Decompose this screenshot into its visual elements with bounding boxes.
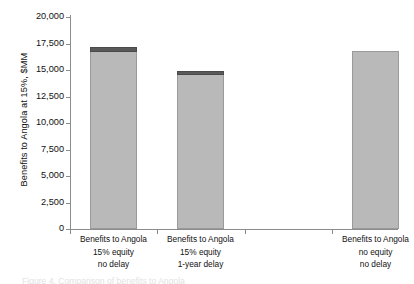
- y-axis-tick-label: 10,000: [2, 118, 64, 127]
- y-axis-tick-label: 12,500: [2, 92, 64, 101]
- y-axis-tick-mark: [66, 176, 71, 177]
- x-axis-category-label-line: no equity: [316, 246, 414, 259]
- bar: [352, 51, 399, 229]
- y-axis-tick-label: 7,500: [2, 145, 64, 154]
- y-axis-tick-mark: [66, 44, 71, 45]
- y-axis-tick-mark: [66, 17, 71, 18]
- bar: [177, 71, 224, 229]
- figure-caption-cutoff: Figure 4. Comparison of benefits to Ango…: [22, 276, 352, 284]
- y-axis-tick-mark: [66, 97, 71, 98]
- bar: [90, 47, 137, 229]
- bar-segment-main: [177, 71, 224, 229]
- y-axis-tick-label: 5,000: [2, 171, 64, 180]
- bar-segment-cap: [177, 71, 224, 75]
- x-axis-category-label-line: Benefits to Angola: [316, 233, 414, 246]
- y-axis-tick-label: 2,500: [2, 198, 64, 207]
- x-axis-category-label: Benefits to Angola15% equity1-year delay: [141, 233, 261, 271]
- x-axis-category-label: Benefits to Angolano equityno delay: [316, 233, 414, 271]
- bar-segment-cap: [90, 47, 137, 52]
- y-axis-tick-mark: [66, 70, 71, 71]
- y-axis-tick-mark: [66, 123, 71, 124]
- y-axis-tick-label: 20,000: [2, 12, 64, 21]
- y-axis-tick-mark: [66, 203, 71, 204]
- bar-segment-main: [352, 51, 399, 229]
- x-axis-line: [70, 229, 398, 230]
- x-axis-category-label-line: Benefits to Angola: [141, 233, 261, 246]
- y-axis-tick-label: 0: [2, 224, 64, 233]
- y-axis-tick-mark: [66, 150, 71, 151]
- y-axis-tick-label: 15,000: [2, 65, 64, 74]
- bar-segment-main: [90, 47, 137, 229]
- x-axis-category-label-line: no delay: [316, 258, 414, 271]
- x-axis-category-label-line: 15% equity: [141, 246, 261, 259]
- y-axis-tick-label: 17,500: [2, 39, 64, 48]
- x-axis-category-label-line: 1-year delay: [141, 258, 261, 271]
